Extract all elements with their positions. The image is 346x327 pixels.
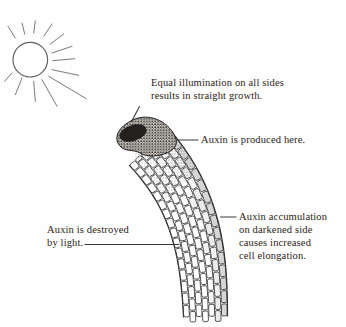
stem-cell	[193, 268, 200, 279]
stem-cell	[221, 304, 227, 316]
stem-cell	[206, 266, 213, 277]
label-auxin-accumulation: Auxin accumulation on darkened side caus…	[239, 210, 327, 262]
stem-cell	[213, 272, 220, 284]
sun-ray	[49, 76, 87, 98]
stem-cell	[189, 299, 195, 310]
stem-cell	[185, 263, 192, 274]
stem-cell	[207, 279, 213, 291]
sun-ray	[34, 21, 36, 33]
label-line: causes increased	[239, 236, 327, 249]
stem-cell	[199, 261, 206, 272]
sun-ray	[42, 80, 57, 107]
stem-cell	[212, 259, 219, 271]
shoot-tip	[117, 117, 177, 156]
stem-cell	[215, 311, 221, 322]
stem-cell	[209, 304, 215, 316]
sun-ray	[5, 73, 12, 81]
sun-ray	[52, 46, 72, 53]
stem-cell	[182, 293, 188, 304]
stem-cell	[202, 242, 209, 253]
stem-cell	[203, 311, 209, 322]
stem-cell	[215, 298, 221, 310]
stem-cell	[197, 250, 204, 261]
label-line: Auxin is destroyed	[47, 223, 129, 236]
sun-ray	[8, 26, 15, 38]
label-line: Auxin is produced here.	[201, 133, 305, 146]
stem-cell	[208, 291, 214, 303]
stem-cell	[219, 265, 226, 277]
label-auxin-produced: Auxin is produced here.	[201, 133, 305, 146]
phototropism-drawing	[0, 0, 346, 327]
stem-cell	[188, 287, 195, 298]
label-line: by light.	[47, 236, 129, 249]
stem-cell	[183, 252, 190, 262]
sun-ray	[44, 24, 52, 36]
label-line: cell elongation.	[239, 249, 327, 262]
label-equal-illumination: Equal illumination on all sides results …	[151, 76, 284, 102]
sun-ray	[52, 70, 79, 76]
stem-cell	[189, 245, 196, 256]
stem-cell	[214, 285, 220, 297]
stem-cell	[187, 275, 194, 286]
stem-cell	[210, 247, 217, 259]
stem-cell	[202, 298, 208, 310]
label-line: Equal illumination on all sides	[151, 76, 284, 89]
label-line: on darkened side	[239, 223, 327, 236]
sun-ray	[22, 23, 25, 34]
label-line: results in straight growth.	[151, 89, 284, 102]
sun-ray	[50, 34, 63, 44]
stem-cell	[221, 291, 227, 303]
diagram-canvas: Equal illumination on all sides results …	[0, 0, 346, 327]
stem-cell	[220, 278, 226, 290]
label-line: Auxin accumulation	[239, 210, 327, 223]
stem-cell	[190, 311, 196, 322]
sun-ray	[15, 78, 22, 95]
stem-cell	[200, 273, 207, 284]
stem-cell	[196, 305, 202, 317]
stem-cell	[194, 280, 201, 291]
stem-cell	[201, 286, 207, 298]
stem-cell	[191, 256, 198, 267]
sun-ray	[34, 81, 36, 101]
stem-cell	[204, 254, 211, 265]
stem-cell	[183, 305, 189, 317]
sun-icon	[5, 21, 87, 107]
label-auxin-destroyed: Auxin is destroyed by light.	[47, 223, 129, 249]
stem-cell	[195, 292, 201, 303]
sun-ray	[53, 59, 75, 61]
